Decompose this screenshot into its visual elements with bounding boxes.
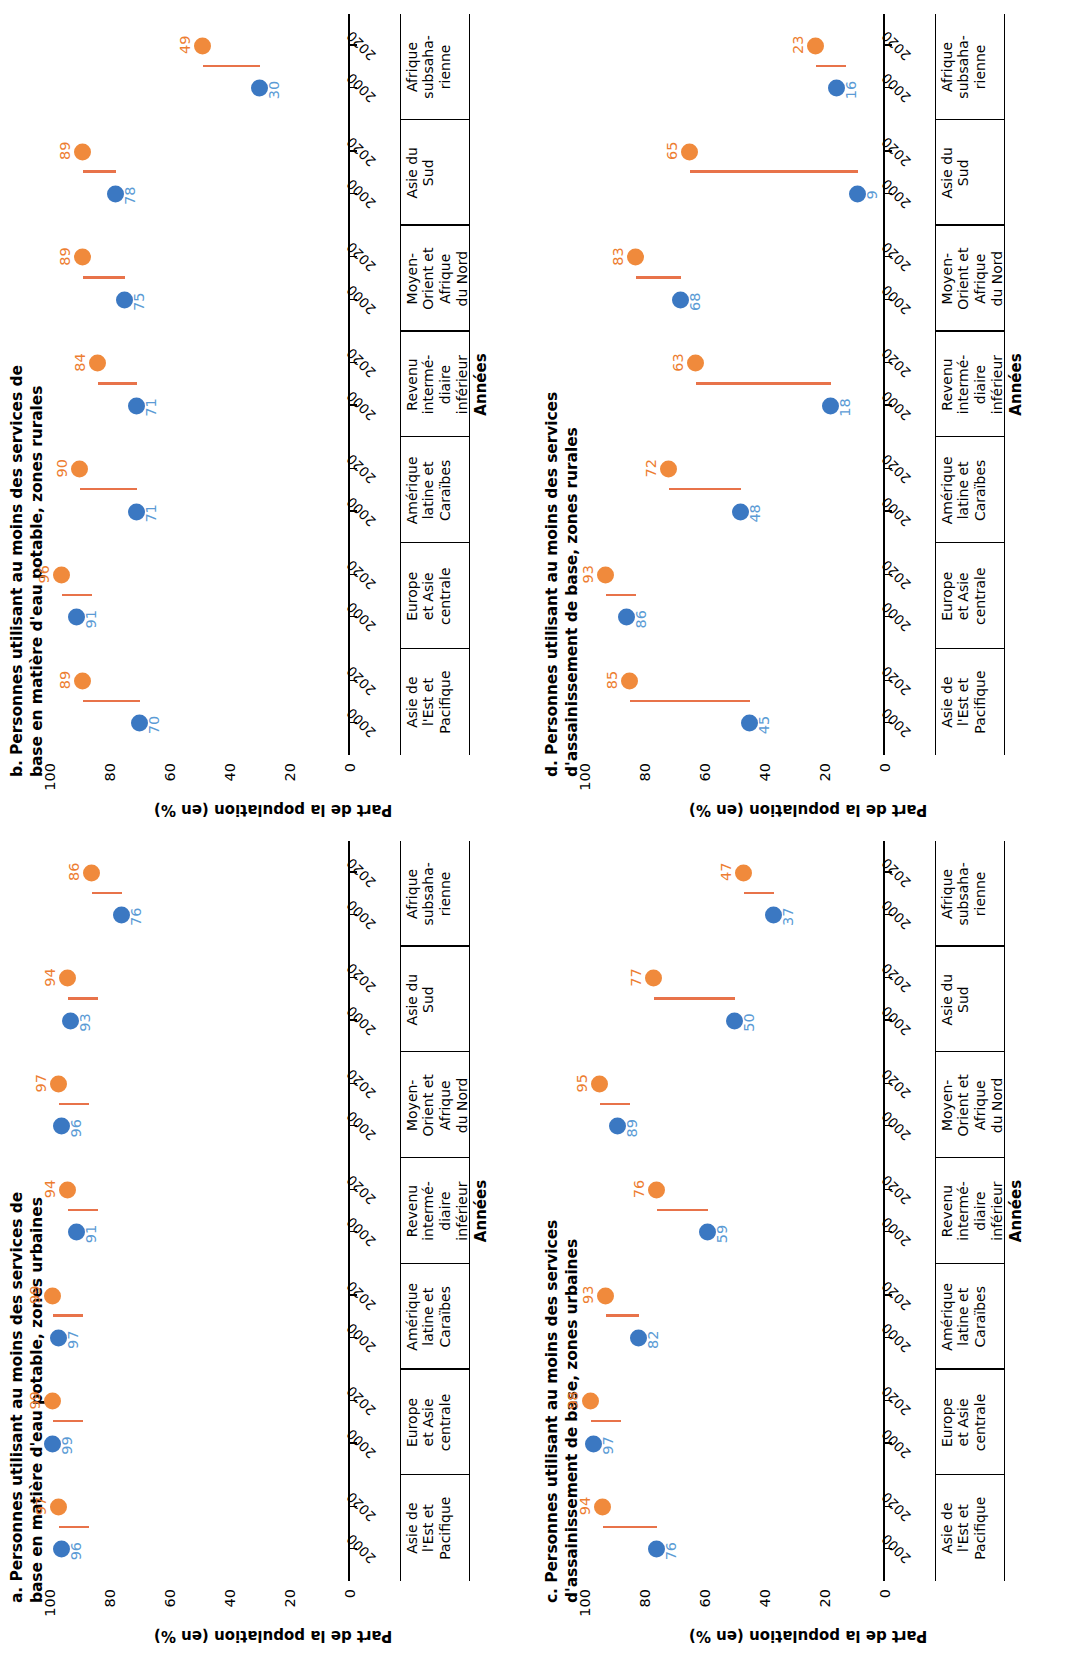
data-point-2020[interactable] [597, 1287, 614, 1304]
x-category-cell: Moyen-Orient etAfriquedu Nord [401, 1052, 469, 1158]
panel-b-ylabel: Part de la population (en %) [154, 801, 392, 819]
x-category-separator [401, 436, 469, 437]
data-group: 965 [585, 120, 885, 226]
panel-a-canvas: 9697999997999194969793947686 [50, 841, 350, 1581]
data-point-2020[interactable] [648, 1181, 665, 1198]
panel-d-xtable: 2000202020002020200020202000202020002020… [885, 14, 1005, 755]
data-point-2020[interactable] [687, 355, 704, 372]
connector-line [68, 997, 98, 999]
data-point-2020[interactable] [71, 461, 88, 478]
panel-d-ylabel: Part de la population (en %) [689, 801, 927, 819]
x-category-line: Asie du [404, 147, 421, 199]
data-point-2020[interactable] [44, 1287, 61, 1304]
data-label-2020: 94 [42, 1180, 58, 1198]
data-label-2020: 86 [66, 863, 82, 881]
connector-line [669, 488, 741, 490]
data-point-2020[interactable] [59, 1181, 76, 1198]
ytick-label: 80 [637, 1589, 653, 1625]
data-group: 7190 [50, 437, 350, 543]
data-point-2020[interactable] [627, 249, 644, 266]
x-category-line: diaire [437, 355, 454, 415]
data-point-2020[interactable] [74, 672, 91, 689]
data-point-2020[interactable] [735, 864, 752, 881]
x-category-separator [936, 119, 1004, 120]
x-category-line: rienne [972, 35, 989, 98]
data-label-2000: 50 [741, 1013, 757, 1031]
data-group: 8293 [585, 1264, 885, 1370]
x-category-separator [401, 224, 469, 225]
data-label-2000: 96 [68, 1119, 84, 1137]
data-label-2020: 98 [565, 1391, 581, 1409]
data-point-2020[interactable] [660, 461, 677, 478]
data-label-2000: 91 [83, 610, 99, 628]
data-point-2020[interactable] [597, 567, 614, 584]
data-label-2020: 89 [57, 141, 73, 159]
panel-b-title: b. Personnes utilisant au moins des serv… [8, 10, 48, 777]
data-label-2000: 76 [663, 1542, 679, 1560]
data-point-2020[interactable] [50, 1076, 67, 1093]
panel-d-plot: Part de la population (en %) 10080604020… [585, 10, 1037, 821]
data-point-2020[interactable] [591, 1076, 608, 1093]
data-point-2020[interactable] [621, 672, 638, 689]
data-point-2020[interactable] [89, 355, 106, 372]
data-group: 7589 [50, 226, 350, 332]
connector-line [59, 1103, 89, 1105]
x-category-line: Afrique [939, 35, 956, 98]
data-group: 7184 [50, 332, 350, 438]
x-category-cell: Asie del'Est etPacifique [936, 649, 1004, 755]
data-point-2020[interactable] [74, 249, 91, 266]
x-category-separator [401, 1368, 469, 1369]
panel-a: a. Personnes utilisant au moins des serv… [0, 827, 535, 1653]
panel-b-xtable: 2000202020002020200020202000202020002020… [350, 14, 470, 755]
panel-d-title-line-2: d'assainissement de base, zones rurales [563, 10, 583, 777]
data-point-2020[interactable] [582, 1393, 599, 1410]
x-category-line: Amérique [939, 1283, 956, 1351]
data-group: 9697 [50, 1475, 350, 1581]
panel-b-canvas: 7089919671907184758978893049 [50, 14, 350, 755]
ytick-label: 40 [757, 763, 773, 799]
data-point-2020[interactable] [59, 970, 76, 987]
data-label-2020: 89 [57, 247, 73, 265]
x-category-separator [936, 945, 1004, 946]
panel-a-yticks: 100806040200 [50, 1583, 350, 1625]
data-label-2000: 96 [68, 1542, 84, 1560]
x-category-line: Caraïbes [437, 456, 454, 524]
data-point-2020[interactable] [50, 1499, 67, 1516]
x-category-separator [936, 1474, 1004, 1475]
ytick-label: 60 [697, 763, 713, 799]
x-category-line: Revenu [404, 355, 421, 415]
data-label-2020: 96 [36, 565, 52, 583]
data-point-2020[interactable] [807, 37, 824, 54]
x-category-cell: Asie duSud [936, 947, 1004, 1053]
data-label-2020: 83 [610, 247, 626, 265]
connector-line [53, 1420, 83, 1422]
connector-line [53, 1314, 83, 1316]
data-label-2020: 95 [574, 1074, 590, 1092]
data-point-2020[interactable] [645, 970, 662, 987]
data-point-2020[interactable] [53, 567, 70, 584]
panel-d-yticks: 100806040200 [585, 757, 885, 799]
connector-line [636, 276, 681, 278]
x-category-line: Moyen- [404, 1074, 421, 1136]
x-category-line: centrale [972, 1394, 989, 1452]
x-category-line: Asie de [404, 1497, 421, 1560]
x-category-line: diaire [972, 355, 989, 415]
x-category-line: Sud [420, 974, 437, 1026]
panel-b-yticks: 100806040200 [50, 757, 350, 799]
ytick-label: 80 [637, 763, 653, 799]
x-category-line: Asie de [939, 671, 956, 734]
data-group: 4585 [585, 649, 885, 755]
ytick-label: 0 [877, 763, 893, 799]
panel-b-title-line-1: b. Personnes utilisant au moins des serv… [8, 10, 28, 777]
data-point-2020[interactable] [194, 37, 211, 54]
data-point-2020[interactable] [594, 1499, 611, 1516]
x-category-line: Afrique [972, 248, 989, 310]
ytick-label: 40 [757, 1589, 773, 1625]
data-point-2020[interactable] [83, 864, 100, 881]
x-category-line: centrale [437, 1394, 454, 1452]
data-point-2020[interactable] [44, 1393, 61, 1410]
data-point-2020[interactable] [681, 143, 698, 160]
data-label-2020: 94 [577, 1497, 593, 1515]
x-category-line: Afrique [404, 35, 421, 98]
data-point-2020[interactable] [74, 143, 91, 160]
